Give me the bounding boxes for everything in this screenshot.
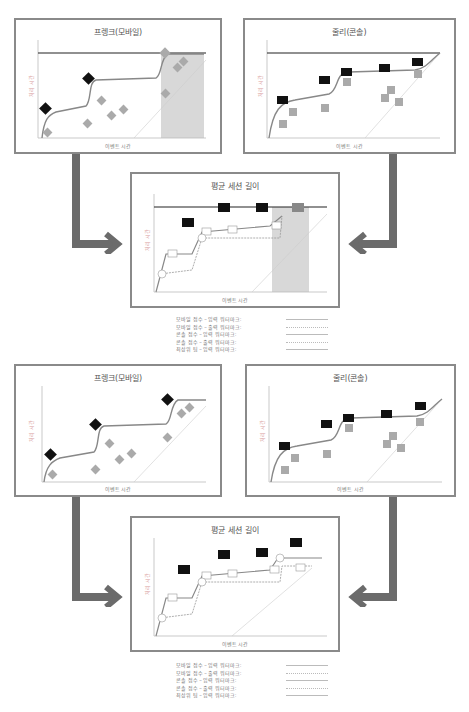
legend-item: 콘솔 점수 – 입력 워터마크: [176, 677, 336, 685]
arrow-right-icon [66, 497, 126, 607]
mobile-chart-panel-1: 프렝크(모바일) 처리 시간 이벤트 시간 [14, 18, 222, 154]
arrow-left-icon [345, 154, 405, 254]
average-chart-panel-1: 평균 세션 길이 처리 시간 이벤트 시간 [130, 172, 340, 308]
x-axis-label: 이벤트 시간 [245, 142, 454, 149]
mobile-chart-plot [16, 20, 220, 152]
mobile-chart-panel-2: 프렝크(모바일) 처리 시간 이벤트 시간 [14, 364, 222, 497]
mobile-chart-plot [16, 366, 220, 495]
average-chart-plot [132, 174, 338, 306]
x-axis-label: 이벤트 시간 [16, 485, 220, 492]
console-chart-plot [245, 20, 454, 152]
legend-item: 콘솔 점수 – 출력 워터마크: [176, 685, 336, 693]
legend-item: 모바일 점수 – 출력 워터마크: [176, 324, 336, 332]
average-chart-panel-2: 평균 세션 길이 처리 시간 이벤트 시간 [130, 516, 340, 652]
legend-item: 콘솔 점수 – 출력 워터마크: [176, 339, 336, 347]
legend-item: 모바일 점수 – 입력 워터마크: [176, 316, 336, 324]
x-axis-label: 이벤트 시간 [247, 485, 454, 492]
legend-2: 모바일 점수 – 입력 워터마크: 모바일 점수 – 출력 워터마크: 콘솔 점… [176, 662, 336, 700]
legend-1: 모바일 점수 – 입력 워터마크: 모바일 점수 – 출력 워터마크: 콘솔 점… [176, 316, 336, 354]
legend-item: 모바일 점수 – 출력 워터마크: [176, 670, 336, 678]
console-chart-panel-2: 줄리(콘솔) 처리 시간 이벤트 시간 [245, 364, 456, 497]
legend-item: 최상위 팀 – 입력 워터마크: [176, 346, 336, 354]
console-chart-panel-1: 줄리(콘솔) 처리 시간 이벤트 시간 [243, 18, 456, 154]
arrow-right-icon [66, 154, 126, 254]
x-axis-label: 이벤트 시간 [132, 296, 338, 303]
average-chart-plot [132, 518, 338, 650]
legend-item: 모바일 점수 – 입력 워터마크: [176, 662, 336, 670]
console-chart-plot [247, 366, 454, 495]
x-axis-label: 이벤트 시간 [16, 142, 220, 149]
x-axis-label: 이벤트 시간 [132, 640, 338, 647]
arrow-left-icon [345, 497, 405, 607]
legend-item: 콘솔 점수 – 입력 워터마크: [176, 331, 336, 339]
legend-item: 최상위 팀 – 입력 워터마크: [176, 692, 336, 700]
